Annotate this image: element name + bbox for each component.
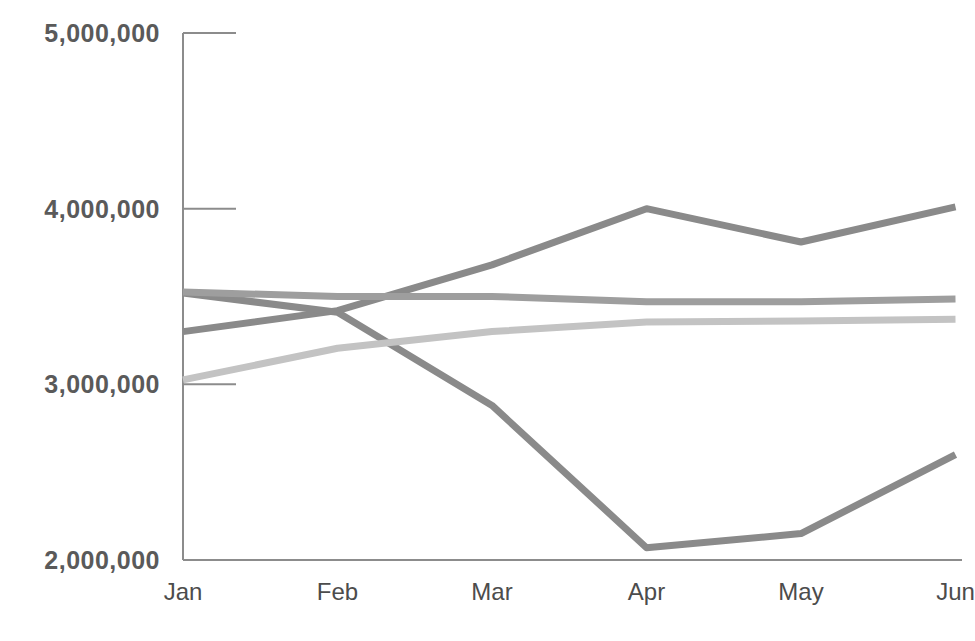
x-axis-tick-label: Apr	[628, 580, 665, 604]
data-series-line	[183, 292, 956, 302]
x-axis-tick-label: May	[778, 580, 823, 604]
data-series-line	[183, 207, 956, 332]
data-series-line	[183, 293, 956, 548]
data-series-group	[183, 207, 956, 548]
data-series-line	[183, 319, 956, 380]
x-axis-tick-label: Jan	[164, 580, 203, 604]
x-axis-tick-label: Feb	[317, 580, 358, 604]
x-axis-tick-label: Mar	[471, 580, 512, 604]
x-axis-tick-label: Jun	[936, 580, 975, 604]
